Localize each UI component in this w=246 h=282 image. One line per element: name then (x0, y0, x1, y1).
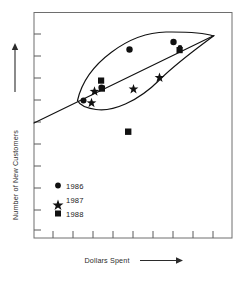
y-axis-title: Number of New Customers (11, 130, 20, 220)
lens-outline (78, 32, 214, 110)
trend-line (34, 36, 214, 124)
legend-item-1987[interactable]: 1987 (53, 196, 84, 211)
scatter-chart: 1986 1987 1988 Dollars Spent Number of N… (0, 0, 246, 282)
series-1988-markers (98, 47, 183, 135)
legend-label-1986: 1986 (66, 182, 84, 191)
chart-legend: 1986 1987 1988 (53, 182, 84, 219)
legend-label-1987: 1987 (66, 196, 84, 205)
legend-circle-icon (55, 183, 61, 189)
y-axis-ticks (34, 34, 41, 230)
y-axis-arrow-head (12, 43, 18, 50)
legend-square-icon (55, 211, 61, 217)
plot-frame (34, 13, 232, 239)
x-axis-title: Dollars Spent (84, 256, 129, 265)
y-axis-title-group: Number of New Customers (11, 43, 20, 220)
legend-star-icon (53, 200, 64, 211)
legend-label-1988: 1988 (66, 210, 84, 219)
legend-item-1988[interactable]: 1988 (55, 210, 84, 219)
x-axis-ticks (53, 231, 213, 238)
legend-item-1986[interactable]: 1986 (55, 182, 84, 191)
chart-canvas: 1986 1987 1988 Dollars Spent Number of N… (0, 0, 246, 282)
x-axis-title-group: Dollars Spent (84, 256, 183, 265)
x-axis-arrow-head (176, 257, 183, 263)
